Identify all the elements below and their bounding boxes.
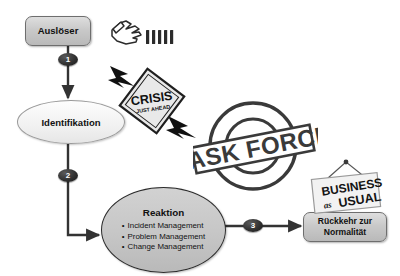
node-reaction-title: Reaktion [143,207,184,218]
crisis-warning-sign-icon: CRISIS JUST AHEAD [106,60,198,142]
list-item: Incident Management [122,221,205,232]
step-marker-3-label: 3 [251,221,255,230]
hanging-sign-icon: BUSINESS as USUAL [306,158,386,214]
node-return-to-normal[interactable]: Rückkehr zur Normalität [303,212,387,242]
list-item: Change Management [122,242,205,253]
node-reaction-list: Incident Management Problem Management C… [122,221,205,253]
node-trigger-label: Auslöser [38,25,79,37]
node-return-label-line1: Rückkehr zur [318,216,372,227]
pointing-hand-icon [108,16,180,50]
node-trigger[interactable]: Auslöser [25,16,91,46]
lightning-bolt-icon [108,66,134,88]
node-identification-label: Identifikation [41,117,100,128]
task-force-stamp-label: TASK FORCE [193,120,318,177]
step-marker-2: 2 [58,169,78,182]
connector-identification-reaction [68,144,99,235]
step-marker-3: 3 [243,219,263,232]
step-marker-1: 1 [58,53,78,66]
list-item: Problem Management [122,232,205,243]
lightning-bolt-icon [166,116,196,139]
node-reaction[interactable]: Reaktion Incident Management Problem Man… [101,187,226,273]
node-return-label-line2: Normalität [318,227,372,238]
step-marker-2-label: 2 [66,171,70,180]
step-marker-1-label: 1 [66,55,70,64]
task-force-stamp-icon: TASK FORCE [193,100,318,192]
